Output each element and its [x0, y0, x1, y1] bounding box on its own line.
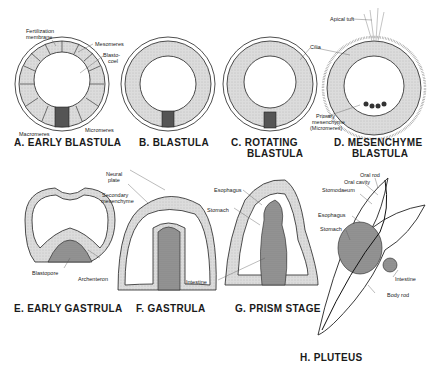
- label-intestine-h: Intestine: [395, 276, 416, 282]
- panel-f-gastrula: [118, 197, 216, 291]
- label-blastocoel-2: coel: [108, 58, 118, 64]
- label-intestine-f: Intestine: [186, 279, 207, 285]
- label-oral-cavity: Oral cavity: [344, 179, 370, 185]
- label-apical-tuft: Apical tuft: [330, 16, 354, 22]
- label-oral-rod: Oral rod: [360, 172, 380, 178]
- panel-h-pluteus: [318, 178, 425, 335]
- label-esophagus-g: Esophagus: [214, 187, 242, 193]
- title-rotating-blastula-1: C. ROTATING: [231, 137, 298, 148]
- title-mesenchyme-blastula-2: BLASTULA: [352, 148, 408, 159]
- panel-c-rotating-blastula: [223, 37, 317, 131]
- label-primary-mesenchyme-3: (Micromeres): [310, 125, 342, 131]
- label-cilia: Cilia: [310, 44, 321, 50]
- panel-b-blastula: [121, 37, 215, 131]
- title-early-blastula: A. EARLY BLASTULA: [14, 137, 121, 148]
- label-neural-plate-2: plate: [108, 177, 120, 183]
- title-early-gastrula: E. EARLY GASTRULA: [14, 303, 122, 314]
- title-blastula: B. BLASTULA: [139, 137, 209, 148]
- label-esophagus-h: Esophagus: [318, 212, 346, 218]
- label-micromeres: Micromeres: [85, 127, 114, 133]
- title-mesenchyme-blastula-1: D. MESENCHYME: [334, 137, 422, 148]
- label-stomach-h: Stomach: [320, 226, 342, 232]
- title-prism-stage: G. PRISM STAGE: [235, 303, 321, 314]
- title-gastrula: F. GASTRULA: [136, 303, 205, 314]
- label-stomodaeum: Stomodaeum: [322, 187, 355, 193]
- label-stomach-g: Stomach: [207, 207, 229, 213]
- label-archenteron: Archenteron: [78, 276, 108, 282]
- label-blastopore: Blastopore: [32, 270, 58, 276]
- panel-g-prism-stage: [225, 180, 318, 285]
- panel-a-early-blastula: [15, 37, 109, 131]
- label-secondary-mesenchyme-2: mesenchyme: [101, 198, 134, 204]
- label-fertilization-membrane-2: membrane: [26, 34, 52, 40]
- label-body-rod: Body rod: [387, 292, 409, 298]
- title-pluteus: H. PLUTEUS: [300, 352, 362, 363]
- label-mesomeres: Mesomeres: [95, 41, 124, 47]
- title-rotating-blastula-2: BLASTULA: [247, 148, 303, 159]
